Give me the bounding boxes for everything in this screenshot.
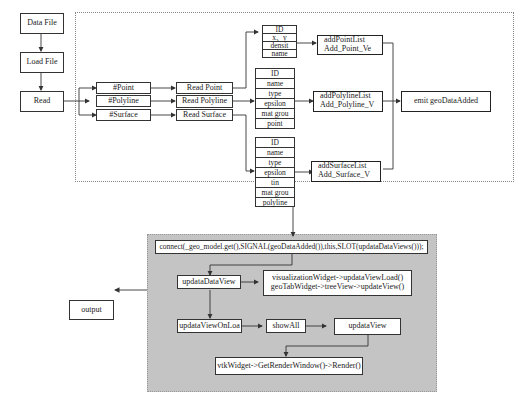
field-cell: mat grou [256,188,294,198]
add-point-list-line2: Add_Point_Ve [324,45,371,54]
field-cell: epsilon [256,99,294,109]
field-cell: tin [256,178,294,188]
field-cell: name [256,148,294,158]
field-cell: ID [256,69,294,79]
point-fields-table: ID x、y densit name [262,25,297,58]
widgets-update-box: visualizationWidget->updataViewLoad() ge… [263,270,412,296]
data-file-box: Data File [20,13,64,34]
field-cell: x、y [263,34,296,42]
render-box: vtkWidget->GetRenderWindow()->Render() [215,357,363,375]
polyline-fields-table: ID name type epsilon mat grou point [255,68,295,129]
field-cell: type [256,158,294,168]
surface-fields-table: ID name type epsilon tin mat grou polyli… [255,137,295,207]
field-cell: ID [256,138,294,148]
read-surface-box: Read Surface [176,109,233,121]
output-box: output [69,300,114,320]
read-polyline-box: Read Polyline [176,95,233,108]
flowchart-canvas: Data File Load File Read #Point #Polylin… [0,0,522,410]
field-cell: type [256,89,294,99]
field-cell: epsilon [256,168,294,178]
show-all-box: showAll [266,319,306,333]
field-cell: name [263,50,296,57]
field-cell: point [256,119,294,128]
type-point-box: #Point [96,82,151,94]
field-cell: mat grou [256,109,294,119]
add-surface-list-box: addSurfaceList Add_Surface_V [311,161,381,182]
add-point-list-box: addPointList Add_Point_Ve [317,35,383,55]
type-surface-box: #Surface [96,109,151,121]
updata-view-box: updataView [334,318,401,335]
add-polyline-list-line2: Add_Polyline_V [320,101,374,110]
load-file-box: Load File [20,52,64,73]
field-cell: densit [263,42,296,50]
updata-view-on-load-box: updataViewOnLoa [177,319,242,333]
add-polyline-list-box: addPolylineList Add_Polyline_V [313,91,383,112]
read-point-box: Read Point [176,82,233,94]
field-cell: polyline [256,198,294,208]
widgets-line2: geoTabWidget->treeView->updateView() [271,283,404,292]
connect-signal-box: connect(_geo_model.get(),SIGNAL(geoDataA… [155,240,428,254]
add-surface-list-line2: Add_Surface_V [318,171,370,180]
updata-data-view-box: updataDataView [177,275,241,289]
field-cell: ID [263,26,296,34]
field-cell: name [256,79,294,89]
emit-geo-data-added-box: emit geoDataAdded [401,91,491,112]
type-polyline-box: #Polyline [96,95,151,107]
read-box: Read [20,91,64,112]
